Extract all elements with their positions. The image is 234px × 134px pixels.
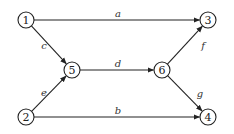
graph-canvas: abcdefg 123456 [0,0,234,134]
node-3: 3 [200,12,216,28]
node-label: 6 [159,64,166,77]
node-label: 3 [205,14,212,27]
edge-label-c: c [41,40,47,51]
edge-label-d: d [115,58,121,69]
graph-diagram: abcdefg 123456 [0,0,234,134]
edge-label-a: a [115,8,121,19]
node-6: 6 [154,62,170,78]
edge-c [31,26,66,64]
node-label: 5 [69,64,76,77]
edges-layer: abcdefg [31,8,207,118]
edge-label-f: f [200,40,207,51]
node-label: 2 [23,111,30,124]
edge-label-e: e [41,87,47,98]
node-label: 4 [205,111,212,124]
edge-label-b: b [115,105,121,116]
edge-label-g: g [197,88,203,99]
edge-f [167,26,202,64]
node-2: 2 [18,109,34,125]
node-1: 1 [18,12,34,28]
node-4: 4 [200,109,216,125]
node-label: 1 [23,14,30,27]
edge-e [32,76,66,111]
node-5: 5 [64,62,80,78]
